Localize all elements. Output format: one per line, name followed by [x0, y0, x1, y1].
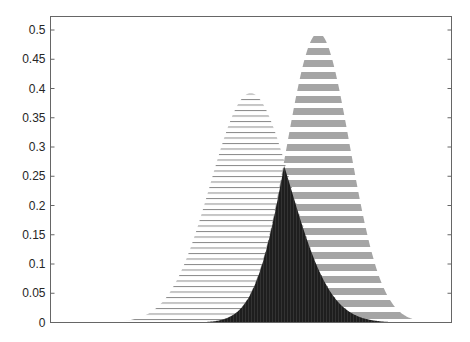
distribution-1-area: [51, 93, 452, 322]
plot-areas: [51, 33, 452, 323]
y-tick-label: 0.5: [29, 23, 46, 37]
y-tick-label: 0.25: [22, 169, 46, 183]
chart: 00.050.10.150.20.250.30.350.40.450.5: [0, 0, 470, 342]
y-tick-label: 0.15: [22, 228, 46, 242]
y-tick-label: 0.05: [22, 286, 46, 300]
y-tick-label: 0.2: [29, 199, 46, 213]
y-tick-label: 0.1: [29, 257, 46, 271]
y-tick-label: 0: [39, 316, 46, 330]
y-tick-label: 0.35: [22, 111, 46, 125]
y-tick-label: 0.45: [22, 52, 46, 66]
y-tick-label: 0.3: [29, 140, 46, 154]
y-tick-label: 0.4: [29, 82, 46, 96]
